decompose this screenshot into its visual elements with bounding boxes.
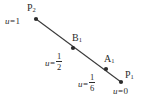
point-label-p1: P1 <box>125 70 134 81</box>
point-label-b1-subscript: 1 <box>79 36 82 43</box>
point-dot-p1 <box>119 80 123 84</box>
param-fraction-b1-denominator: 2 <box>56 63 62 72</box>
param-equals-a1: = <box>83 79 88 89</box>
param-variable-a1: u <box>78 79 83 89</box>
param-equals-p1: = <box>118 86 123 96</box>
param-fraction-a1: 16 <box>89 73 95 92</box>
line-segment-parameterization-figure: P2 B1 A1 P1 u=1 u=12 u=16 u=0 <box>0 0 145 110</box>
point-label-b1-name: B <box>72 32 79 43</box>
param-label-p1: u=0 <box>113 87 128 96</box>
param-fraction-b1: 12 <box>56 52 62 71</box>
param-label-a1: u=16 <box>78 73 95 92</box>
point-label-a1: A1 <box>104 54 114 65</box>
param-equals-p2: = <box>10 16 15 26</box>
param-fraction-a1-denominator: 6 <box>89 84 95 93</box>
point-dot-b1 <box>71 46 75 50</box>
param-equals-b1: = <box>50 58 55 68</box>
param-fraction-b1-numerator: 1 <box>56 52 62 61</box>
point-dot-p2 <box>34 17 38 21</box>
param-label-p2: u=1 <box>5 17 20 26</box>
param-variable-p2: u <box>5 16 10 26</box>
point-label-b1: B1 <box>72 33 82 44</box>
param-value-p2: 1 <box>16 16 21 26</box>
point-label-p2: P2 <box>27 3 36 14</box>
point-dot-a1 <box>104 67 108 71</box>
param-value-p1: 0 <box>124 86 129 96</box>
param-fraction-a1-numerator: 1 <box>89 73 95 82</box>
point-label-p2-subscript: 2 <box>33 6 36 13</box>
param-variable-b1: u <box>45 58 50 68</box>
point-label-a1-subscript: 1 <box>111 57 114 64</box>
point-label-p1-subscript: 1 <box>131 73 134 80</box>
param-variable-p1: u <box>113 86 118 96</box>
param-label-b1: u=12 <box>45 52 62 71</box>
